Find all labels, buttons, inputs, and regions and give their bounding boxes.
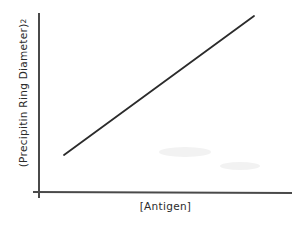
scan-artifact [159, 147, 211, 157]
data-line-series-1 [64, 16, 254, 155]
x-axis [33, 192, 292, 193]
x-axis-label: [Antigen] [39, 200, 292, 212]
chart-figure: (Precipitin Ring Diameter)2 [Antigen] [0, 0, 304, 228]
plot-area [0, 0, 304, 228]
scan-artifact [220, 162, 260, 170]
